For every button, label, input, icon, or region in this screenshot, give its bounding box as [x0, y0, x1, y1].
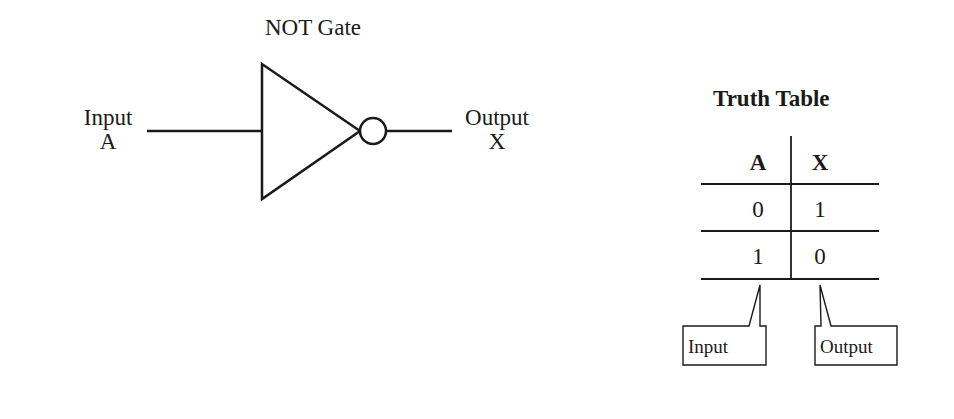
- inversion-bubble: [360, 118, 386, 144]
- table-cell: 0: [738, 198, 778, 221]
- truth-table-title: Truth Table: [713, 86, 830, 112]
- output-variable: X: [452, 130, 542, 153]
- output-label-group: Output X: [452, 106, 542, 153]
- table-cell: 1: [800, 198, 840, 221]
- output-callout-label: Output: [820, 337, 873, 356]
- table-cell: 0: [800, 245, 840, 268]
- input-label-group: Input A: [70, 106, 146, 153]
- input-label: Input: [70, 106, 146, 129]
- gate-title: NOT Gate: [265, 16, 361, 39]
- input-variable: A: [70, 130, 146, 153]
- not-gate-triangle: [262, 64, 360, 199]
- output-label: Output: [452, 106, 542, 129]
- table-header-a: A: [738, 151, 778, 174]
- table-cell: 1: [738, 245, 778, 268]
- input-callout-label: Input: [688, 337, 728, 356]
- table-header-x: X: [800, 151, 840, 174]
